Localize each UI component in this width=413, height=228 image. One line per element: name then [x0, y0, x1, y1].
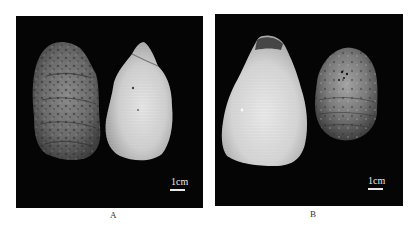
panel-label-b: B — [310, 209, 316, 219]
panel-label-a: A — [110, 210, 117, 220]
scale-bar-label-a: 1cm — [171, 177, 188, 187]
scale-bar-b — [368, 188, 383, 190]
shell-b2 — [315, 48, 378, 141]
figure: 1cm — [0, 0, 413, 228]
shell-b1 — [222, 35, 307, 166]
scale-bar-label-b: 1cm — [368, 176, 385, 186]
shell-a2 — [106, 42, 173, 160]
panel-b-photo: 1cm — [215, 14, 403, 206]
scale-bar-a — [170, 189, 185, 191]
panel-a-photo: 1cm — [16, 16, 203, 208]
shell-a1 — [33, 42, 101, 160]
